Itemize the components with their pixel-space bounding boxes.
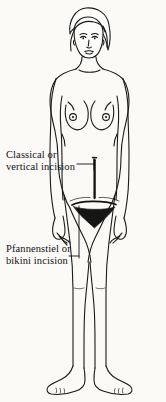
foot-right [94, 366, 132, 394]
toe-right-2 [118, 388, 119, 393]
leg-right-outer [106, 195, 115, 366]
toe-left-1 [56, 388, 57, 393]
bikini-incision-marker [72, 201, 116, 205]
finger-right-1 [110, 233, 122, 243]
pupil-right [94, 37, 96, 39]
collarbone [79, 70, 100, 72]
annotation-pfannenstiel-bikini-incision: Pfannenstiel or bikini incision [6, 243, 71, 267]
neck-left [76, 57, 82, 69]
toe-left-3 [64, 389, 65, 394]
breast-right [91, 101, 114, 130]
torso-right [109, 79, 129, 208]
arm-right-outer [123, 79, 129, 218]
nipple-left [72, 116, 74, 118]
flank-left [62, 134, 65, 146]
shoulder-left [56, 69, 76, 79]
toe-left-2 [60, 388, 61, 393]
toe-right-3 [114, 389, 115, 394]
leg-right-inner [90, 262, 95, 368]
annotation-classical-line-1: Classical or [6, 149, 75, 161]
torso-left [50, 79, 70, 208]
flank-right [114, 134, 117, 146]
toe-right-1 [122, 388, 123, 393]
female-body-line-drawing [0, 0, 166, 402]
shoulder-right [103, 69, 123, 79]
neck-right [96, 57, 103, 69]
annotation-pfannenstiel-line-2: bikini incision [6, 255, 71, 267]
groin-crease-left [70, 197, 90, 201]
breast-crease-left [68, 102, 74, 110]
annotation-classical-vertical-incision: Classical or vertical incision [6, 149, 75, 173]
leg-left-inner [84, 262, 89, 368]
breast-crease-right [105, 102, 111, 110]
nose-bridge [88, 40, 89, 46]
annotation-pfannenstiel-line-1: Pfannenstiel or [6, 243, 71, 255]
leg-left-outer [64, 195, 73, 366]
knee-left [74, 288, 84, 289]
cesarean-incision-diagram: Classical or vertical incision Pfannenst… [0, 0, 166, 402]
foot-left [47, 366, 85, 394]
pupil-left [82, 37, 84, 39]
nipple-right [105, 116, 107, 118]
breast-left [65, 101, 88, 130]
annotation-classical-line-2: vertical incision [6, 161, 75, 173]
knee-right [96, 288, 105, 289]
